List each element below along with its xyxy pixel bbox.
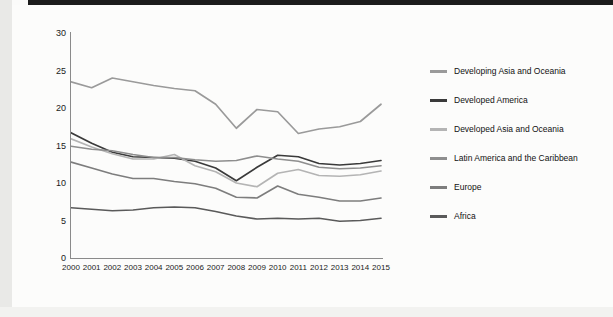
y-tick-label: 20 <box>44 104 66 113</box>
x-axis-line <box>70 258 383 259</box>
chart-page: Per cent 051015202530 200020012002200320… <box>0 0 613 317</box>
legend-item-label: Developed Asia and Oceania <box>454 124 564 134</box>
plot-area <box>71 33 382 258</box>
legend-color-swatch <box>430 99 447 102</box>
legend-color-swatch <box>430 215 447 218</box>
series-line <box>71 207 381 221</box>
page-bottom-edge <box>0 307 613 317</box>
series-line <box>71 133 381 181</box>
y-tick-label: 30 <box>44 29 66 38</box>
legend-item[interactable]: Africa <box>430 209 476 223</box>
legend-item[interactable]: Developed Asia and Oceania <box>430 122 564 136</box>
legend-item[interactable]: Developing Asia and Oceania <box>430 64 566 78</box>
chart-legend: Developing Asia and OceaniaDeveloped Ame… <box>430 64 610 234</box>
y-tick-label: 5 <box>44 217 66 226</box>
x-axis-tick-labels: 2000200120022003200420052006200720082009… <box>71 263 382 277</box>
legend-item-label: Latin America and the Caribbean <box>454 153 578 163</box>
series-line <box>71 78 381 134</box>
y-tick-label: 15 <box>44 142 66 151</box>
legend-item-label: Developed America <box>454 95 528 105</box>
legend-item[interactable]: Europe <box>430 180 481 194</box>
y-tick-label: 0 <box>44 254 66 263</box>
series-line <box>71 139 381 187</box>
y-tick-label: 10 <box>44 179 66 188</box>
page-left-edge <box>0 0 12 317</box>
legend-color-swatch <box>430 70 447 73</box>
legend-item[interactable]: Latin America and the Caribbean <box>430 151 578 165</box>
legend-item-label: Europe <box>454 182 481 192</box>
line-series-group <box>71 33 382 258</box>
legend-color-swatch <box>430 186 447 189</box>
legend-item-label: Developing Asia and Oceania <box>454 66 566 76</box>
legend-item[interactable]: Developed America <box>430 93 528 107</box>
y-tick-label: 25 <box>44 67 66 76</box>
legend-color-swatch <box>430 128 447 131</box>
x-tick-label: 2015 <box>368 263 394 273</box>
legend-item-label: Africa <box>454 211 476 221</box>
page-top-edge-bar <box>28 0 613 5</box>
legend-color-swatch <box>430 157 447 160</box>
